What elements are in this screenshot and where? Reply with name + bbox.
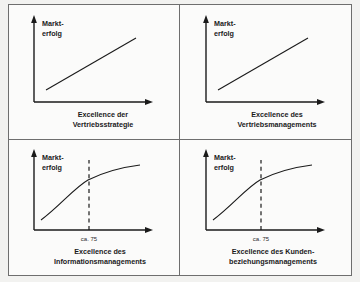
marker-label-bottom-left: ca. 75: [81, 236, 98, 242]
data-line-top-left: [46, 38, 136, 90]
y-axis-label-line1: Markt-: [214, 19, 236, 28]
y-axis-label-line1: Markt-: [214, 153, 236, 162]
y-axis-label-line2: erfolg: [42, 29, 62, 38]
y-axis-label-line2: erfolg: [42, 163, 62, 172]
data-curve-bottom-left: [41, 165, 140, 220]
y-axis-label-line2: erfolg: [214, 163, 234, 172]
chart-panel-bottom-left: Markt- erfolg ca. 75 Excellence des Info…: [8, 140, 179, 275]
y-axis-label-line2: erfolg: [214, 29, 234, 38]
marker-label-bottom-right: ca. 75: [253, 236, 270, 242]
y-axis-label-line1: Markt-: [42, 153, 64, 162]
chart-panel-bottom-right: Markt- erfolg ca. 75 Excellence des Kund…: [180, 140, 351, 275]
y-axis-label-line1: Markt-: [42, 19, 64, 28]
figure-root: Markt- erfolg Excellence der Vertriebsst…: [0, 0, 360, 282]
x-axis-label-line2: Vertriebsstrategie: [73, 120, 134, 129]
x-axis-label-line1: Excellence des Kunden-: [232, 247, 315, 256]
x-axis-label-line1: Excellence des: [251, 110, 303, 119]
data-curve-bottom-right: [213, 165, 312, 220]
x-axis-label-line1: Excellence der: [78, 110, 129, 119]
x-axis-label-line1: Excellence des: [74, 247, 126, 256]
x-axis-label-line2: Vertriebsmanagements: [237, 120, 316, 129]
chart-panel-top-right: Markt- erfolg Excellence des Vertriebsma…: [180, 4, 351, 139]
chart-panel-top-left: Markt- erfolg Excellence der Vertriebsst…: [8, 4, 179, 139]
x-axis-label-line2: Informationsmanagements: [54, 257, 146, 266]
x-axis-label-line2: beziehungsmanagements: [229, 257, 317, 266]
data-line-top-right: [218, 38, 308, 90]
